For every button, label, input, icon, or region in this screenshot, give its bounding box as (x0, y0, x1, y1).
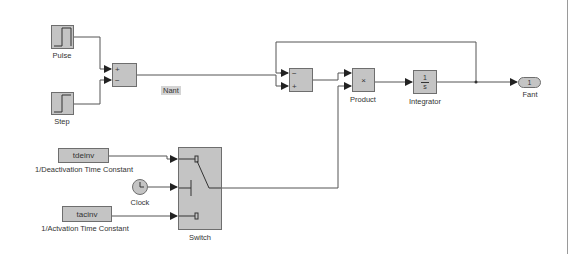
clock-label: Clock (120, 198, 160, 207)
outport-fant-block[interactable]: 1 (518, 77, 541, 88)
product-label: Product (338, 95, 388, 104)
integrator-numerator: 1 (414, 74, 436, 81)
switch-label: Switch (180, 233, 220, 242)
pulse-block[interactable] (51, 25, 74, 49)
diagram-canvas: Pulse Step + − Nant − + × Product 1 s In… (0, 0, 570, 254)
pulse-waveform-icon (52, 26, 73, 48)
switch-block[interactable] (178, 147, 222, 230)
clock-icon (133, 180, 147, 194)
nant-signal-label: Nant (161, 86, 181, 95)
switch-icon (179, 148, 221, 229)
product-block[interactable]: × (352, 68, 375, 92)
integrator-block[interactable]: 1 s (413, 70, 437, 94)
sum2-plus-sign: + (292, 83, 297, 91)
sum2-minus-sign: − (292, 70, 297, 78)
step-block[interactable] (51, 92, 74, 115)
sum2-block[interactable]: − + (289, 68, 313, 92)
product-symbol: × (353, 69, 374, 91)
sum1-block[interactable]: + − (112, 63, 137, 87)
sum1-minus-sign: − (115, 77, 120, 85)
window-right-border (567, 0, 568, 254)
sum1-plus-sign: + (115, 66, 120, 74)
step-waveform-icon (52, 93, 73, 114)
tacinv-constant-block[interactable]: tacinv (62, 206, 112, 222)
outport-fant-label: Fant (510, 90, 550, 99)
step-label: Step (42, 117, 82, 126)
tacinv-label: 1/Actvation Time Constant (20, 224, 150, 233)
outport-number: 1 (519, 78, 540, 87)
integrator-label: Integrator (400, 97, 450, 106)
clock-block[interactable] (132, 179, 148, 195)
tdeinv-constant-block[interactable]: tdeinv (58, 148, 109, 163)
tdeinv-value: tdeinv (59, 149, 108, 162)
tacinv-value: tacinv (63, 207, 111, 221)
integrator-denominator: s (414, 83, 436, 90)
pulse-label: Pulse (42, 51, 82, 60)
tdeinv-label: 1/Deactivation Time Constant (14, 165, 154, 174)
